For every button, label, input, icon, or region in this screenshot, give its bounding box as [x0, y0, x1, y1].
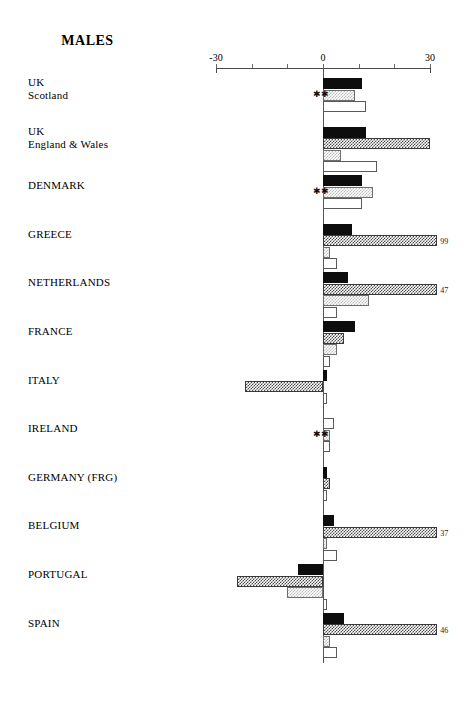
axis-tick	[252, 64, 253, 68]
bar-checker	[323, 624, 437, 635]
bar-hollow	[323, 490, 327, 501]
significance-marker: ✱✱	[313, 90, 328, 99]
group-label: UK England & Wales	[28, 125, 108, 151]
group-label: ITALY	[28, 374, 60, 387]
bar-checker	[323, 284, 437, 295]
axis-tick-label-zero: 0	[321, 52, 326, 63]
bar-stipple	[323, 538, 327, 549]
group-label: GERMANY (FRG)	[28, 471, 117, 484]
chart-title: MALES	[0, 33, 471, 49]
bar-stipple	[287, 587, 323, 598]
bar-group: BELGIUM37	[0, 509, 471, 558]
bar-value-label: 37	[440, 529, 448, 538]
bar-group: UK Scotland✱✱	[0, 72, 471, 121]
bar-solid	[323, 272, 348, 283]
bar-checker	[323, 527, 437, 538]
bar-hollow	[323, 418, 334, 429]
bar-checker	[323, 478, 330, 489]
bar-stipple	[323, 295, 369, 306]
bar-stipple	[323, 150, 341, 161]
bar-solid	[323, 127, 366, 138]
bar-solid	[323, 370, 327, 381]
axis-tick-label-min: -30	[209, 52, 222, 63]
bar-solid	[323, 321, 355, 332]
bar-hollow	[323, 647, 337, 658]
bar-group: FRANCE	[0, 315, 471, 364]
bar-checker	[323, 333, 344, 344]
bar-value-label: 47	[440, 286, 448, 295]
axis-tick	[287, 64, 288, 68]
bar-solid	[323, 467, 327, 478]
bar-checker	[245, 381, 323, 392]
chart-root: MALES -30 0 30 UK Scotland✱✱UK England &…	[0, 0, 471, 701]
bar-group: GERMANY (FRG)	[0, 461, 471, 510]
bar-value-label: 46	[440, 626, 448, 635]
bar-stipple	[323, 247, 330, 258]
bar-group: NETHERLANDS47	[0, 266, 471, 315]
bar-hollow	[323, 441, 330, 452]
bar-checker	[237, 576, 323, 587]
group-label: NETHERLANDS	[28, 276, 110, 289]
group-label: GREECE	[28, 228, 72, 241]
bar-solid	[323, 613, 344, 624]
significance-marker: ✱✱	[313, 430, 328, 439]
chart-title-text: MALES	[61, 33, 113, 48]
bar-solid	[323, 515, 334, 526]
bar-value-label: 99	[440, 237, 448, 246]
bar-group: GREECE99	[0, 218, 471, 267]
bar-group: PORTUGAL	[0, 558, 471, 607]
group-label: UK Scotland	[28, 76, 68, 102]
bar-stipple	[323, 636, 330, 647]
bar-stipple	[323, 187, 373, 198]
bar-group: DENMARK✱✱	[0, 169, 471, 218]
bar-group: ITALY	[0, 364, 471, 413]
bar-solid	[323, 224, 352, 235]
bar-group: UK England & Wales	[0, 121, 471, 170]
axis-tick-label-max: 30	[425, 52, 435, 63]
x-axis-tick-labels: -30 0 30	[0, 52, 471, 66]
group-label: BELGIUM	[28, 519, 80, 532]
group-label: FRANCE	[28, 325, 73, 338]
bar-checker	[323, 138, 430, 149]
bar-hollow	[323, 101, 366, 112]
bar-checker	[323, 235, 437, 246]
axis-tick	[394, 64, 395, 68]
bar-hollow	[323, 198, 362, 209]
bar-group: IRELAND✱✱	[0, 412, 471, 461]
bar-solid	[298, 564, 323, 575]
group-label: IRELAND	[28, 422, 78, 435]
group-label: DENMARK	[28, 179, 85, 192]
bar-hollow	[323, 393, 327, 404]
bar-solid	[323, 78, 362, 89]
bar-solid	[323, 175, 362, 186]
group-label: SPAIN	[28, 617, 60, 630]
bar-stipple	[323, 344, 337, 355]
bar-group: SPAIN46	[0, 607, 471, 656]
group-label: PORTUGAL	[28, 568, 88, 581]
significance-marker: ✱✱	[313, 187, 328, 196]
axis-tick	[359, 64, 360, 68]
